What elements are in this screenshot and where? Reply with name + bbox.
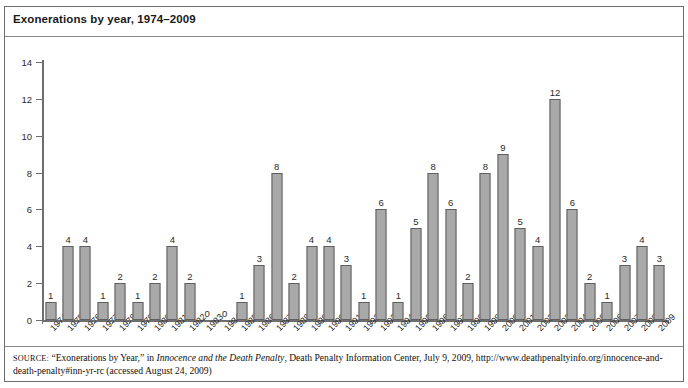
x-axis-tick-mark: [303, 320, 304, 324]
bar-group[interactable]: 92000: [494, 62, 511, 320]
bar[interactable]: [654, 265, 665, 320]
bar-group[interactable]: 62004: [564, 62, 581, 320]
bar[interactable]: [80, 246, 91, 320]
bar-group[interactable]: 11985: [233, 62, 250, 320]
x-axis-tick-mark: [199, 320, 200, 324]
bar-group[interactable]: 12006: [598, 62, 615, 320]
bar-value-label: 2: [587, 271, 592, 282]
bar-value-label: 8: [274, 161, 279, 172]
bar-group[interactable]: 32007: [616, 62, 633, 320]
x-axis-tick-mark: [581, 320, 582, 324]
bar-value-label: 4: [170, 234, 175, 245]
bar-group[interactable]: 21998: [459, 62, 476, 320]
bar-group[interactable]: 41981: [164, 62, 181, 320]
bar[interactable]: [376, 209, 387, 320]
bar[interactable]: [463, 283, 474, 320]
bar-group[interactable]: 122003: [546, 62, 563, 320]
bar-group[interactable]: 22005: [581, 62, 598, 320]
bar[interactable]: [97, 302, 108, 320]
bar[interactable]: [410, 228, 421, 320]
source-publication-title: Innocence and the Death Penalty: [157, 352, 285, 363]
bar[interactable]: [358, 302, 369, 320]
bar-group[interactable]: 41990: [320, 62, 337, 320]
bar-value-label: 6: [378, 197, 383, 208]
bar-group[interactable]: 42002: [529, 62, 546, 320]
bar[interactable]: [271, 173, 282, 320]
bar[interactable]: [45, 302, 56, 320]
x-axis-tick-mark: [494, 320, 495, 324]
bar-value-label: 0: [205, 308, 210, 319]
bar[interactable]: [428, 173, 439, 320]
bar[interactable]: [167, 246, 178, 320]
bar[interactable]: [323, 246, 334, 320]
y-axis-tick-label: 12: [21, 93, 32, 104]
x-axis-tick-mark: [425, 320, 426, 324]
bar[interactable]: [619, 265, 630, 320]
bar-group[interactable]: 01984: [216, 62, 233, 320]
source-label: SOURCE:: [13, 354, 49, 363]
bar-group[interactable]: 61997: [442, 62, 459, 320]
bar-group[interactable]: 81999: [477, 62, 494, 320]
bar[interactable]: [532, 246, 543, 320]
bar-group[interactable]: 11994: [390, 62, 407, 320]
bar-value-label: 4: [639, 234, 644, 245]
x-axis-tick-mark: [633, 320, 634, 324]
bar[interactable]: [549, 99, 560, 320]
bar-group[interactable]: 51995: [407, 62, 424, 320]
bar-value-label: 3: [257, 253, 262, 264]
bar[interactable]: [341, 265, 352, 320]
bar-group[interactable]: 52001: [512, 62, 529, 320]
bar-group[interactable]: 11979: [129, 62, 146, 320]
source-note: SOURCE: “Exonerations by Year,” in Innoc…: [13, 352, 673, 378]
bar-group[interactable]: 01983: [199, 62, 216, 320]
bar-group[interactable]: 31986: [251, 62, 268, 320]
title-divider: [5, 36, 683, 37]
bar-value-label: 3: [657, 253, 662, 264]
bar[interactable]: [445, 209, 456, 320]
x-axis-tick-mark: [216, 320, 217, 324]
bar-group[interactable]: 21978: [112, 62, 129, 320]
bar-value-label: 4: [309, 234, 314, 245]
bar-group[interactable]: 41989: [303, 62, 320, 320]
bar-group[interactable]: 41976: [77, 62, 94, 320]
bar-group[interactable]: 32009: [651, 62, 668, 320]
bar[interactable]: [584, 283, 595, 320]
bar[interactable]: [132, 302, 143, 320]
bar[interactable]: [115, 283, 126, 320]
bar[interactable]: [497, 154, 508, 320]
bar[interactable]: [254, 265, 265, 320]
bar-group[interactable]: 21982: [181, 62, 198, 320]
x-axis-tick-mark: [338, 320, 339, 324]
x-axis-tick-mark: [546, 320, 547, 324]
bar[interactable]: [289, 283, 300, 320]
bar-group[interactable]: 42008: [633, 62, 650, 320]
figure-container: Exonerations by year, 1974–2009 02468101…: [0, 0, 688, 388]
bar-group[interactable]: 21980: [146, 62, 163, 320]
bar[interactable]: [184, 283, 195, 320]
x-axis-tick-mark: [651, 320, 652, 324]
bar[interactable]: [636, 246, 647, 320]
x-axis-tick-mark: [146, 320, 147, 324]
bar-value-label: 1: [604, 290, 609, 301]
bar[interactable]: [63, 246, 74, 320]
x-axis-tick-mark: [42, 320, 43, 324]
bar-group[interactable]: 41975: [59, 62, 76, 320]
bar[interactable]: [515, 228, 526, 320]
bar-group[interactable]: 61993: [372, 62, 389, 320]
bar[interactable]: [567, 209, 578, 320]
bar-group[interactable]: 31991: [338, 62, 355, 320]
bar-group[interactable]: 11992: [355, 62, 372, 320]
bar-value-label: 5: [413, 216, 418, 227]
bar-group[interactable]: 21988: [285, 62, 302, 320]
x-axis-tick-mark: [355, 320, 356, 324]
bar-group[interactable]: 11974: [42, 62, 59, 320]
bar-group[interactable]: 81987: [268, 62, 285, 320]
bar[interactable]: [150, 283, 161, 320]
bar-value-label: 3: [344, 253, 349, 264]
bar-value-label: 12: [550, 87, 561, 98]
bar[interactable]: [480, 173, 491, 320]
bar-group[interactable]: 81996: [425, 62, 442, 320]
bar[interactable]: [306, 246, 317, 320]
bar-group[interactable]: 11977: [94, 62, 111, 320]
x-axis-tick-mark: [529, 320, 530, 324]
